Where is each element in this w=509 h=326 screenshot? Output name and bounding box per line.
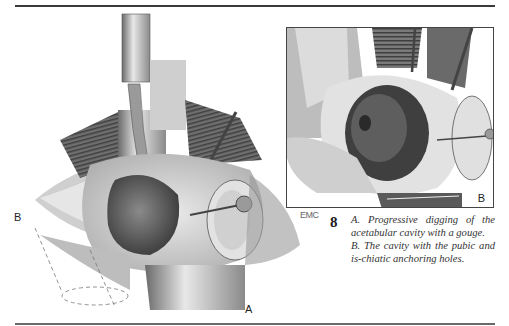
top-rule <box>15 5 495 7</box>
figure-number: 8 <box>330 214 338 231</box>
panel-b-inset-label: B <box>478 192 485 204</box>
figure-caption: A. Progressive digging of the acetabular… <box>351 213 495 265</box>
artist-signature: EMC <box>300 210 319 220</box>
figure-panel-b-illustration <box>287 28 494 208</box>
figure-panel-b-inset: B <box>286 27 494 208</box>
figure-panel-a-illustration <box>0 8 320 318</box>
caption-part-a: A. Progressive digging of the acetabular… <box>351 213 495 239</box>
panel-a-label: A <box>245 303 252 315</box>
bottom-rule <box>15 323 495 325</box>
caption-part-b: B. The cavity with the pubic and is-chia… <box>351 239 495 265</box>
panel-b-reference-label: B <box>14 211 21 223</box>
